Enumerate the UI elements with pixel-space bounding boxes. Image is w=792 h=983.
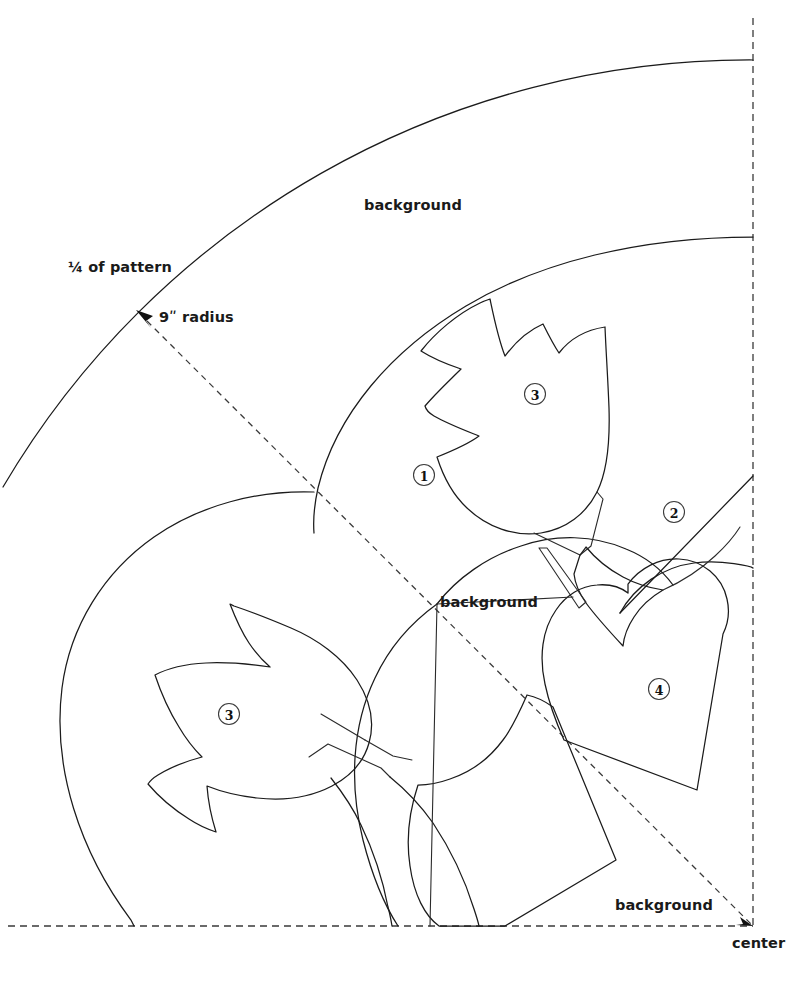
- piece-badge-2: 2: [664, 502, 685, 523]
- lower-heart-group: [408, 695, 616, 926]
- lower-tulip-right-stem: [309, 744, 390, 777]
- quilt-pattern-svg: 1 2 3 3 4 ¼ of pattern 9ʺ radius backgro…: [0, 0, 792, 983]
- background-sliver-group: [430, 597, 573, 926]
- piece-badge-3-upper: 3: [525, 384, 546, 405]
- pattern-diagram-root: 1 2 3 3 4 ¼ of pattern 9ʺ radius backgro…: [0, 0, 792, 983]
- inner-right-circle-group: [620, 562, 753, 613]
- piece-badge-4-label: 4: [655, 683, 664, 698]
- label-background-middle: background: [440, 594, 538, 610]
- background-sliver-edge: [430, 597, 573, 926]
- piece-badge-4: 4: [649, 679, 670, 700]
- center-arrow-icon: [736, 917, 753, 926]
- upper-tulip-blossom: [421, 299, 609, 534]
- label-quarter-of-pattern: ¼ of pattern: [68, 259, 172, 275]
- lower-left-background-circle-arc: [60, 492, 314, 926]
- lower-heart-shape: [408, 695, 616, 926]
- piece-badge-1-label: 1: [420, 469, 429, 484]
- label-background-top: background: [364, 197, 462, 213]
- lower-tulip-stem-link: [365, 740, 412, 760]
- lower-leaf-stem-right: [390, 777, 479, 926]
- lower-leaf-stem-left: [331, 778, 392, 926]
- piece-badge-3-upper-label: 3: [531, 388, 540, 403]
- lower-tulip-group: [148, 604, 412, 832]
- inner-right-circle-arc: [620, 562, 753, 613]
- lower-left-circle-group: [60, 492, 314, 926]
- piece-2-spoke-group: [620, 476, 753, 613]
- middle-background-circle-arc: [355, 604, 437, 926]
- upper-tulip-group: [421, 299, 609, 555]
- guide-lines-group: [8, 18, 753, 926]
- piece-badge-1: 1: [414, 465, 435, 486]
- piece-badge-2-label: 2: [670, 506, 679, 521]
- label-nine-inch-radius: 9ʺ radius: [159, 309, 234, 325]
- lower-leaf-cluster-group: [331, 777, 479, 926]
- center-arrow-group: [736, 917, 753, 926]
- piece-badge-3-lower-label: 3: [225, 708, 234, 723]
- label-background-bottom: background: [615, 897, 713, 913]
- piece-2-radial-line: [620, 476, 753, 613]
- centre-leaf-cluster-group: [539, 527, 740, 646]
- label-center: center: [732, 935, 786, 951]
- lower-tulip-blossom: [148, 604, 372, 832]
- piece-badge-3-lower: 3: [219, 704, 240, 725]
